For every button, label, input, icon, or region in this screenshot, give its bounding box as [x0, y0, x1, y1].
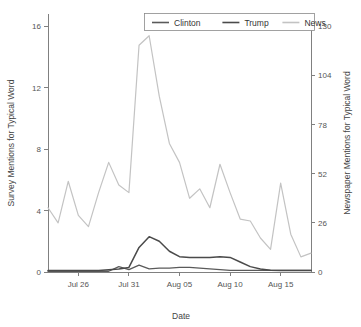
x-tick-label: Aug 05	[167, 280, 193, 289]
x-tick-label: Jul 26	[68, 280, 90, 289]
plot-axes	[48, 14, 311, 272]
legend-label-news: News	[304, 18, 325, 28]
right-tick-label: 52	[318, 170, 327, 179]
right-tick-label: 26	[318, 219, 327, 228]
right-axis-title: Newspaper Mentions for Typical Word	[342, 71, 352, 215]
line-chart: 0481216 0265278104130 Jul 26Jul 31Aug 05…	[0, 0, 361, 327]
x-axis-title: Date	[172, 311, 190, 321]
left-tick-label: 16	[32, 22, 41, 31]
x-tick-label: Jul 31	[118, 280, 140, 289]
legend-label-clinton: Clinton	[174, 18, 201, 28]
left-axis-ticks: 0481216	[32, 22, 48, 277]
x-axis-ticks: Jul 26Jul 31Aug 05Aug 10Aug 15	[68, 272, 294, 289]
chart-legend: ClintonTrumpNews	[145, 14, 326, 31]
series-line-news	[48, 36, 311, 257]
right-tick-label: 104	[318, 71, 332, 80]
legend-label-trump: Trump	[244, 18, 269, 28]
x-tick-label: Aug 10	[217, 280, 243, 289]
right-tick-label: 78	[318, 121, 327, 130]
left-axis-title: Survey Mentions for Typical Word	[6, 79, 16, 206]
left-tick-label: 0	[37, 268, 42, 277]
right-tick-label: 0	[318, 268, 323, 277]
left-tick-label: 12	[32, 84, 41, 93]
x-tick-label: Aug 15	[268, 280, 294, 289]
chart-container: 0481216 0265278104130 Jul 26Jul 31Aug 05…	[0, 0, 361, 327]
left-tick-label: 4	[37, 207, 42, 216]
data-series-group	[48, 36, 311, 271]
left-tick-label: 8	[37, 145, 42, 154]
right-axis-ticks: 0265278104130	[311, 22, 332, 277]
